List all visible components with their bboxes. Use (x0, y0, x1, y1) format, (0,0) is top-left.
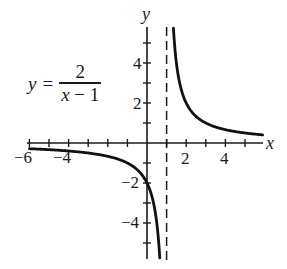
curve-right-branch (173, 28, 262, 135)
function-graph: x y −6 −4 2 4 4 2 −2 −4 (0, 0, 287, 269)
x-axis-label: x (265, 133, 274, 153)
equation-denominator: x − 1 (59, 84, 101, 106)
equation-label: y = 2 x − 1 (28, 62, 101, 106)
equation-numerator: 2 (71, 62, 89, 82)
x-tick-label-4: 4 (220, 149, 229, 168)
y-tick-label-neg2: −2 (121, 173, 139, 192)
x-tick-label-2: 2 (181, 149, 190, 168)
equation-equals: = (42, 73, 53, 95)
x-tick-label-neg4: −4 (53, 148, 72, 167)
y-tick-label-2: 2 (133, 94, 142, 113)
y-axis-label: y (140, 4, 150, 24)
denominator-variable: x (61, 84, 69, 105)
curve-left-branch (29, 149, 159, 258)
y-tick-label-4: 4 (133, 54, 142, 73)
equation-fraction: 2 x − 1 (59, 62, 101, 106)
denominator-constant: − 1 (70, 84, 100, 105)
y-tick-label-neg4: −4 (121, 213, 140, 232)
x-tick-label-neg6: −6 (14, 148, 32, 167)
equation-lhs: y (28, 73, 36, 95)
